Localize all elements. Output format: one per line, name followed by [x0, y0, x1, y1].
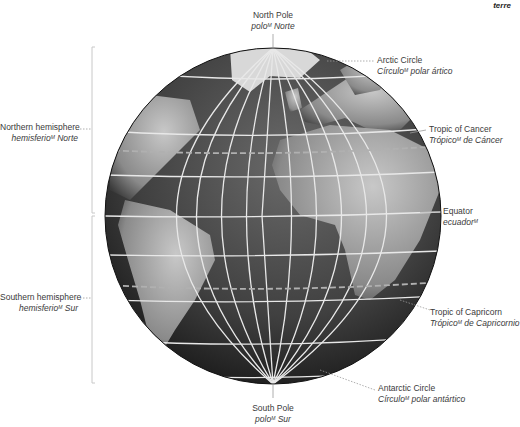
label-tropic-of-capricorn: Tropic of Capricorn TrópicoM de Capricor… [430, 307, 520, 328]
label-arctic-circle: Arctic Circle CírculoM polar ártico [377, 55, 453, 76]
label-north-pole: North Pole poloM Norte [233, 10, 313, 31]
globe-sphere [105, 44, 441, 384]
hemisphere-brackets [92, 47, 95, 383]
label-tropic-of-cancer: Tropic of Cancer TrópicoM de Cáncer [429, 124, 502, 145]
label-northern-hemisphere: Northern hemisphere hemisferioM Norte [0, 122, 78, 143]
label-antarctic-circle: Antarctic Circle CírculoM polar antártic… [378, 383, 465, 404]
label-equator: Equator ecuadorM [443, 206, 478, 227]
label-south-pole: South Pole poloM Sur [233, 403, 313, 424]
label-southern-hemisphere: Southern hemisphere hemisferioM Sur [0, 292, 78, 313]
